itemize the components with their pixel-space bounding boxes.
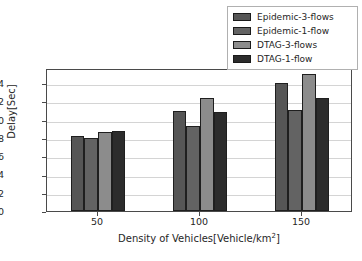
legend-swatch-epidemic-3-flows [233,13,251,21]
legend-item-epidemic-3-flows: Epidemic-3-flows [233,11,352,23]
legend-label-dtag-3-flows: DTAG-3-flows [257,40,317,50]
x-axis-label: Density of Vehicles[Vehicle/km2] [46,233,352,245]
legend-label-epidemic-3-flows: Epidemic-3-flows [257,12,334,22]
y-tick-label: 1.0 [0,116,4,126]
plot-area [46,69,352,212]
bar [186,126,200,211]
bar [173,111,187,211]
y-tick-mark [42,212,46,213]
y-axis-label: Delay[Sec] [6,77,17,147]
x-tick-mark [199,212,200,216]
x-tick-label: 100 [174,216,224,227]
bar [275,83,289,211]
y-tick-label: 0.8 [0,134,4,144]
y-tick-label: 0.2 [0,189,4,199]
bar [200,98,214,211]
legend-item-epidemic-1-flow: Epidemic-1-flow [233,25,352,37]
legend-label-epidemic-1-flow: Epidemic-1-flow [257,26,329,36]
legend-label-dtag-1-flow: DTAG-1-flow [257,54,312,64]
bar [98,132,112,211]
bar [112,131,126,211]
bar [71,136,85,211]
legend-swatch-dtag-3-flows [233,41,251,49]
y-tick-label: 0.0 [0,207,4,217]
bar-chart-figure: Epidemic-3-flows Epidemic-1-flow DTAG-3-… [0,0,362,261]
bar [302,74,316,211]
x-tick-mark [97,212,98,216]
bars-layer [47,70,351,211]
y-tick-label: 1.2 [0,97,4,107]
legend-item-dtag-1-flow: DTAG-1-flow [233,53,352,65]
x-axis-label-superscript: 2 [272,232,276,240]
bar [84,138,98,211]
x-tick-label: 150 [276,216,326,227]
bar [214,112,228,211]
x-tick-mark [301,212,302,216]
bar [288,110,302,211]
legend-item-dtag-3-flows: DTAG-3-flows [233,39,352,51]
legend-swatch-dtag-1-flow [233,55,251,63]
y-tick-label: 0.6 [0,152,4,162]
chart-legend: Epidemic-3-flows Epidemic-1-flow DTAG-3-… [227,6,358,70]
y-tick-label: 1.4 [0,79,4,89]
y-tick-label: 0.4 [0,170,4,180]
legend-swatch-epidemic-1-flow [233,27,251,35]
x-tick-label: 50 [72,216,122,227]
bar [316,98,330,211]
